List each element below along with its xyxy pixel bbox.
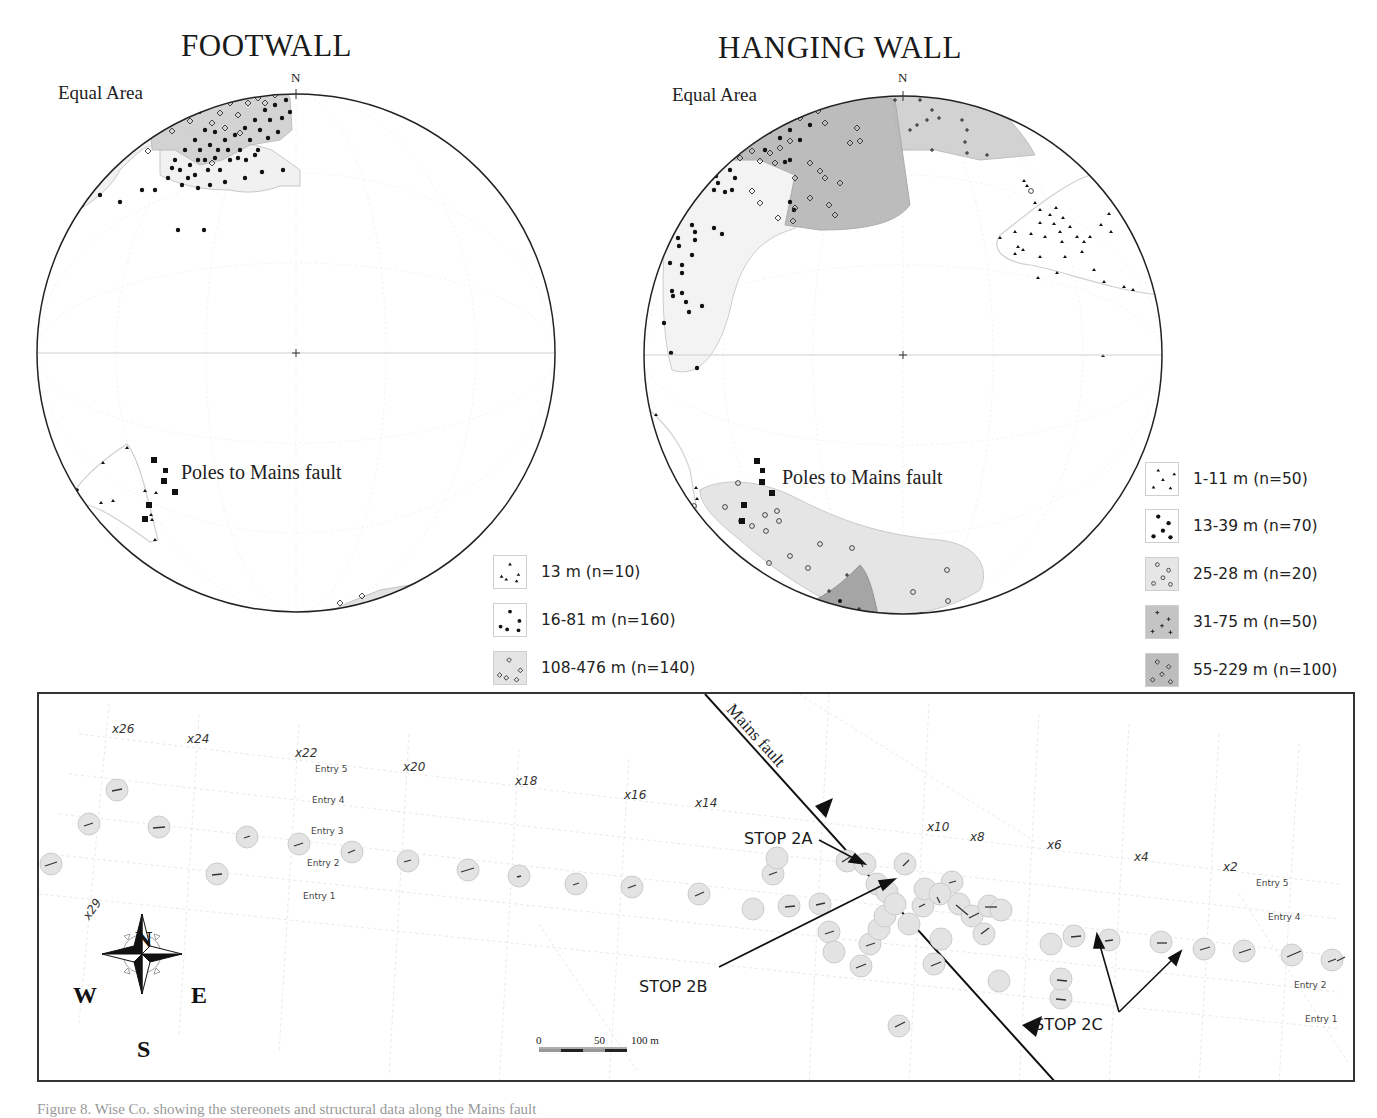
scale-end-label: 100 m [631, 1034, 659, 1046]
crosscut-label: x4 [1134, 850, 1149, 864]
crosscut-label: x6 [1047, 838, 1062, 852]
legend-item: 108-476 m (n=140) [493, 648, 695, 688]
legend-item: 16-81 m (n=160) [493, 600, 675, 640]
legend-item: 25-28 m (n=20) [1145, 554, 1318, 594]
legend-label: 108-476 m (n=140) [541, 659, 695, 677]
legend-label: 31-75 m (n=50) [1193, 613, 1318, 631]
scale-mid-label: 50 [594, 1034, 605, 1046]
mine-map-graphic [39, 694, 1355, 1082]
footwall-projection-label: Equal Area [58, 82, 143, 104]
crosscut-label: x2 [1223, 860, 1238, 874]
stop-2b-label: STOP 2B [639, 977, 707, 996]
triangle-symbol-icon [493, 555, 527, 589]
plus-symbol-icon [1145, 605, 1179, 639]
footwall-title: FOOTWALL [181, 28, 352, 64]
compass-west-label: W [73, 982, 97, 1009]
triangle-symbol-icon [1145, 462, 1179, 496]
mine-map: x26 x24 x22 x20 x18 x16 x14 x10 x8 x6 x4… [37, 692, 1355, 1082]
legend-item: 1-11 m (n=50) [1145, 459, 1308, 499]
entry-label: Entry 1 [303, 891, 336, 901]
stop-2a-label: STOP 2A [744, 829, 812, 848]
crosscut-label: x20 [403, 760, 425, 774]
legend-label: 13 m (n=10) [541, 563, 640, 581]
entry-label: Entry 2 [1294, 980, 1327, 990]
entry-label: Entry 5 [1256, 878, 1289, 888]
hanging-wall-projection-label: Equal Area [672, 84, 757, 106]
dot-symbol-icon [1145, 509, 1179, 543]
crosscut-label: x8 [970, 830, 985, 844]
crosscut-label: x22 [295, 746, 317, 760]
entry-label: Entry 1 [1305, 1014, 1338, 1024]
figure-caption: Figure 8. Wise Co. showing the stereonet… [37, 1101, 536, 1118]
dot-symbol-icon [493, 603, 527, 637]
legend-label: 25-28 m (n=20) [1193, 565, 1318, 583]
legend-label: 16-81 m (n=160) [541, 611, 675, 629]
circle-symbol-icon [1145, 557, 1179, 591]
crosscut-label: x18 [515, 774, 537, 788]
crosscut-label: x10 [927, 820, 949, 834]
entry-label: Entry 4 [312, 795, 345, 805]
legend-label: 13-39 m (n=70) [1193, 517, 1318, 535]
scale-bar-icon [539, 1048, 627, 1052]
compass-north-label: N [135, 926, 152, 953]
hanging-wall-poles-label: Poles to Mains fault [782, 466, 943, 489]
stop-2c-label: STOP 2C [1034, 1015, 1103, 1034]
footwall-north-label: N [291, 70, 300, 86]
entry-label: Entry 5 [315, 764, 348, 774]
diamond-symbol-icon [493, 651, 527, 685]
compass-south-label: S [137, 1036, 150, 1063]
crosscut-label: x26 [112, 722, 134, 736]
legend-item: 13-39 m (n=70) [1145, 506, 1318, 546]
crosscut-label: x16 [624, 788, 646, 802]
entry-label: Entry 3 [311, 826, 344, 836]
diamond-symbol-icon [1145, 653, 1179, 687]
entry-label: Entry 4 [1268, 912, 1301, 922]
legend-label: 55-229 m (n=100) [1193, 661, 1337, 679]
legend-item: 55-229 m (n=100) [1145, 650, 1337, 690]
legend-item: 13 m (n=10) [493, 552, 640, 592]
entry-label: Entry 2 [307, 858, 340, 868]
mini-stereonets [40, 779, 1343, 1037]
hanging-wall-north-label: N [898, 70, 907, 86]
legend-label: 1-11 m (n=50) [1193, 470, 1308, 488]
compass-east-label: E [191, 982, 207, 1009]
hanging-wall-title: HANGING WALL [718, 30, 962, 66]
footwall-poles-label: Poles to Mains fault [181, 461, 342, 484]
crosscut-label: x24 [187, 732, 209, 746]
scale-zero-label: 0 [536, 1034, 542, 1046]
crosscut-label: x14 [695, 796, 717, 810]
legend-item: 31-75 m (n=50) [1145, 602, 1318, 642]
